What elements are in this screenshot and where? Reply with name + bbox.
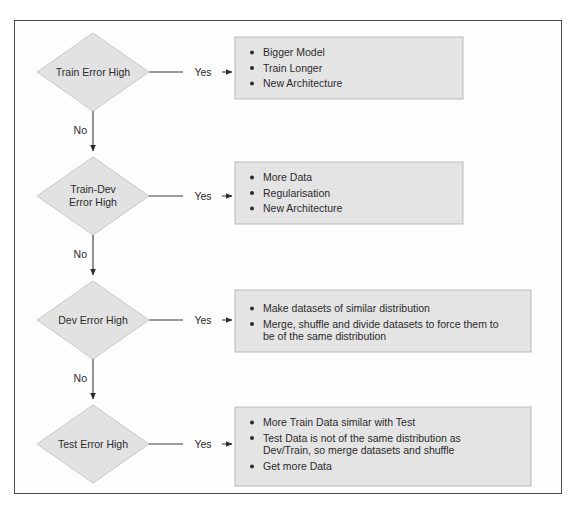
decision-label-3: Dev Error High [58, 314, 128, 326]
action-box-train-error-actions[interactable]: Bigger Model Train Longer New Architectu… [235, 37, 463, 99]
action-item-text-cont: be of the same distribution [263, 330, 386, 342]
bullet-icon [250, 207, 254, 211]
bullet-icon [250, 322, 254, 326]
decision-node-dev-error-high[interactable]: Dev Error High [37, 281, 149, 359]
action-item-text-cont: Dev/Train, so merge datasets and shuffle [263, 444, 455, 456]
bullet-icon [250, 421, 254, 425]
action-item-text: Regularisation [263, 187, 330, 199]
screenshot-root: Train Error High Yes Bigger Model Train … [0, 0, 579, 514]
flowchart-svg: Train Error High Yes Bigger Model Train … [15, 21, 560, 492]
bullet-icon [250, 465, 254, 469]
edge-label-yes-2: Yes [194, 190, 211, 202]
action-box-test-error-actions[interactable]: More Train Data similar with Test Test D… [235, 407, 531, 486]
edge-yes-1: Yes [149, 66, 232, 78]
action-item-text: New Architecture [263, 202, 343, 214]
action-box-train-dev-error-actions[interactable]: More Data Regularisation New Architectur… [235, 162, 463, 224]
edge-label-no-1: No [74, 124, 88, 136]
action-box-dev-error-actions[interactable]: Make datasets of similar distribution Me… [235, 290, 531, 352]
decision-label-2b: Error High [69, 196, 117, 208]
bullet-icon [250, 66, 254, 70]
action-item-text: Get more Data [263, 460, 332, 472]
decision-label-1: Train Error High [56, 66, 130, 78]
bullet-icon [250, 51, 254, 55]
decision-label-4: Test Error High [58, 438, 128, 450]
diagram-frame: Train Error High Yes Bigger Model Train … [14, 20, 562, 494]
bullet-icon [250, 191, 254, 195]
bullet-icon [250, 436, 254, 440]
edge-yes-2: Yes [149, 190, 232, 202]
edge-yes-4: Yes [149, 438, 232, 450]
action-item-text: Test Data is not of the same distributio… [263, 432, 461, 444]
action-item-text: More Train Data similar with Test [263, 416, 415, 428]
action-item-text: New Architecture [263, 77, 343, 89]
edge-no-1: No [74, 111, 93, 151]
action-item-text: Bigger Model [263, 46, 325, 58]
action-item-text: More Data [263, 171, 312, 183]
edge-label-no-2: No [74, 248, 88, 260]
action-item-text: Merge, shuffle and divide datasets to fo… [263, 318, 499, 330]
edge-label-yes-1: Yes [194, 66, 211, 78]
edge-no-2: No [74, 235, 93, 275]
bullet-icon [250, 307, 254, 311]
edge-label-yes-3: Yes [194, 314, 211, 326]
decision-label-2a: Train-Dev [70, 183, 116, 195]
bullet-icon [250, 176, 254, 180]
decision-node-train-error-high[interactable]: Train Error High [37, 33, 149, 111]
action-item-text: Make datasets of similar distribution [263, 302, 430, 314]
decision-node-test-error-high[interactable]: Test Error High [37, 405, 149, 483]
bullet-icon [250, 82, 254, 86]
edge-label-yes-4: Yes [194, 438, 211, 450]
edge-no-3: No [74, 359, 93, 399]
action-item-text: Train Longer [263, 62, 323, 74]
decision-node-train-dev-error-high[interactable]: Train-Dev Error High [37, 157, 149, 235]
edge-label-no-3: No [74, 372, 88, 384]
edge-yes-3: Yes [149, 314, 232, 326]
